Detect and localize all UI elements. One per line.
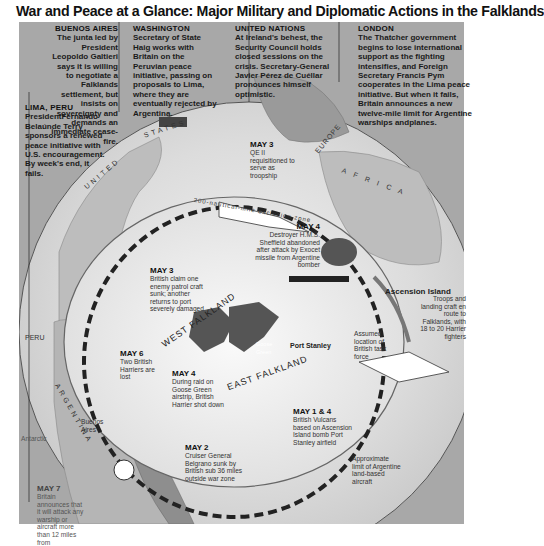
event-qe2: MAY 3QE II requisitioned to serve as tro… <box>250 140 295 179</box>
event-sheffield: MAY 4Destroyer H.M.S. Sheffield abandone… <box>245 222 320 269</box>
label-antarctic: Antarctic <box>21 435 47 443</box>
label-buenos-aires: Buenos Aires <box>81 418 111 433</box>
page-title: War and Peace at a Glance: Major Militar… <box>16 3 544 19</box>
event-belgrano: MAY 2Cruiser General Belgrano sunk by Br… <box>185 443 250 482</box>
lima-box: LIMA, PERU PresidentFernando Belaúnde Te… <box>25 103 105 178</box>
event-patrol-craft: MAY 3British claim one enemy patrol craf… <box>150 266 210 313</box>
event-harriers-lost: MAY 6Two British Harriers are lost <box>120 349 155 381</box>
london-box: LONDON The Thatcher government begins to… <box>358 24 476 127</box>
label-port-stanley: Port Stanley <box>290 342 331 349</box>
label-goose-green: Goose Green <box>256 341 278 356</box>
united-nations-box: UNITED NATIONS At Ireland's behest, the … <box>235 24 345 99</box>
event-vulcans: MAY 1 & 4British Vulcans based on Ascens… <box>293 407 353 446</box>
label-troops: Troops and landing craft en route to Fal… <box>420 295 466 341</box>
label-peru: PERU <box>25 334 44 341</box>
label-task-force: Assumed location of British task force <box>354 330 389 360</box>
event-may7: MAY 7Britain announces that it will atta… <box>37 484 85 546</box>
label-air-limit: Approximate limit of Argentine land-base… <box>352 455 402 485</box>
washington-box: WASHINGTON Secretary of State Haig works… <box>133 24 218 118</box>
event-goose-green: MAY 4During raid on Goose Green airstrip… <box>172 369 227 408</box>
